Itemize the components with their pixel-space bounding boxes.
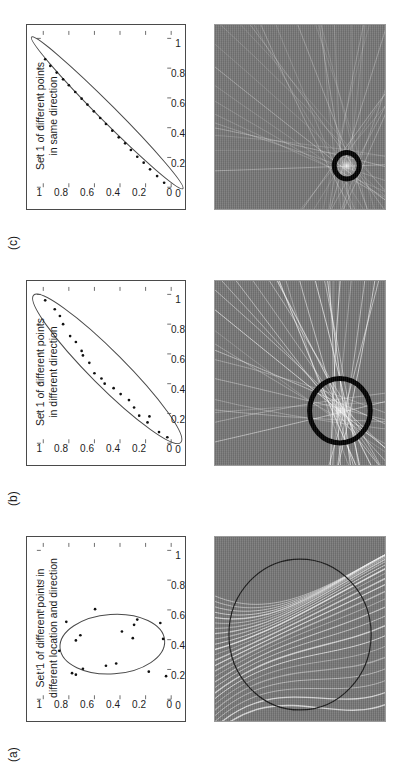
- reconstruction-image: [214, 280, 386, 466]
- figure-canvas: (a)Set 1 of different points indifferent…: [0, 0, 406, 768]
- panel-c: (c)Set 1 of different pointsin same dire…: [0, 0, 406, 256]
- panel-a: (a)Set 1 of different points indifferent…: [0, 512, 406, 768]
- panel-b: (b)Set 1 of different pointsin different…: [0, 256, 406, 512]
- reconstruction-image: [214, 24, 386, 210]
- panel-label: (a): [6, 747, 20, 762]
- scatter-plot: [26, 280, 186, 466]
- panel-label: (b): [6, 491, 20, 506]
- scatter-plot: [26, 24, 186, 210]
- panel-label: (c): [6, 236, 20, 250]
- scatter-plot: [26, 536, 186, 722]
- reconstruction-image: [214, 536, 386, 722]
